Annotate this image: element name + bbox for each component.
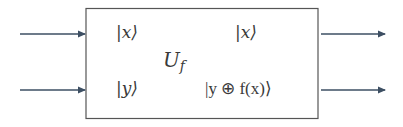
- gate-subscript: f: [180, 58, 185, 74]
- diagram-canvas: [0, 0, 403, 127]
- input-label-y: |y⟩: [116, 78, 138, 98]
- gate-label: Uf: [163, 48, 185, 74]
- gate-name: U: [163, 48, 180, 72]
- output-label-x: |x⟩: [235, 22, 257, 42]
- input-label-x: |x⟩: [116, 22, 138, 42]
- output-label-y-xor-fx: |y ⊕ f(x)⟩: [205, 78, 272, 99]
